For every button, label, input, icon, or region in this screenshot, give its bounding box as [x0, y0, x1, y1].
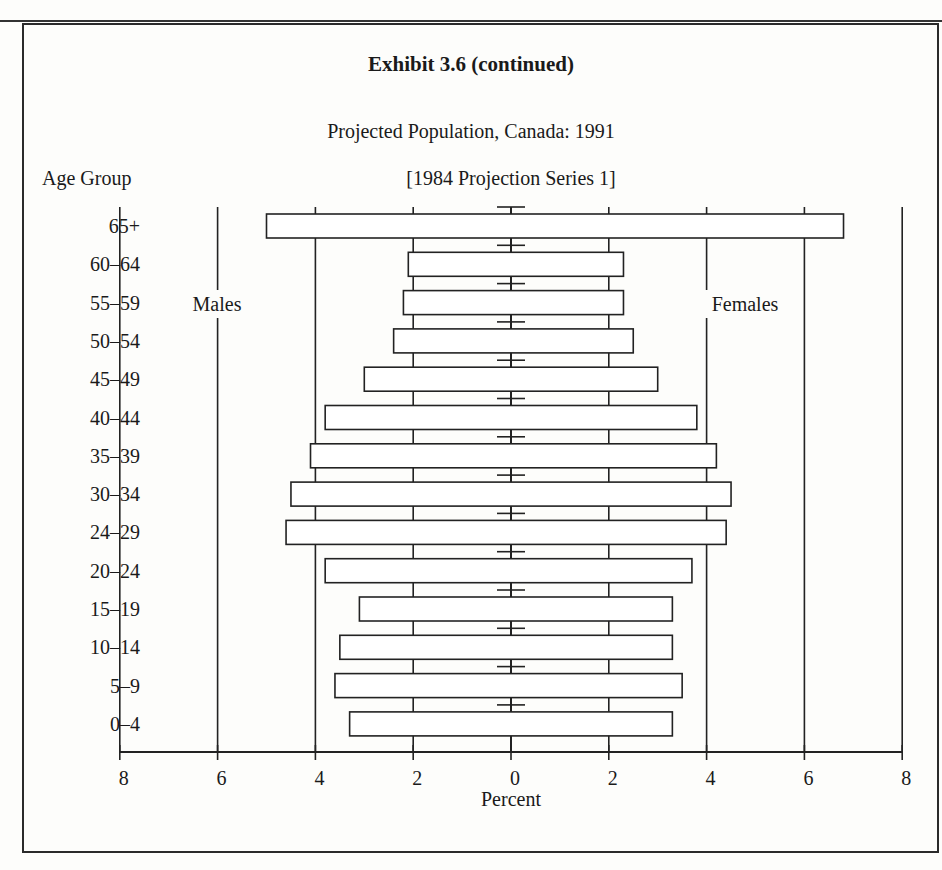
- x-tick-label: 4: [314, 767, 324, 789]
- age-label: 24–29: [90, 521, 140, 543]
- bar-50–54: [394, 329, 634, 353]
- age-group-labels: 65+60–6455–5950–5445–4940–4435–3930–3424…: [90, 215, 140, 735]
- x-tick-label: 2: [608, 767, 618, 789]
- population-pyramid-chart: 864202468 65+60–6455–5950–5445–4940–4435…: [0, 0, 942, 870]
- bar-15–19: [359, 597, 672, 621]
- bar-60–64: [408, 252, 623, 276]
- x-tick-label: 0: [510, 767, 520, 789]
- age-label: 20–24: [90, 560, 140, 582]
- age-label: 40–44: [90, 407, 140, 429]
- bar-45–49: [364, 367, 657, 391]
- age-label: 30–34: [90, 483, 140, 505]
- bar-0–4: [350, 712, 673, 736]
- bar-10–14: [340, 635, 673, 659]
- age-label: 60–64: [90, 253, 140, 275]
- x-axis-label: Percent: [0, 788, 942, 811]
- x-axis: 864202468: [119, 745, 911, 789]
- age-label: 50–54: [90, 330, 140, 352]
- age-label: 15–19: [90, 598, 140, 620]
- age-label: 10–14: [90, 636, 140, 658]
- age-label: 55–59: [90, 292, 140, 314]
- x-tick-label: 6: [217, 767, 227, 789]
- bar-5–9: [335, 674, 682, 698]
- age-label: 0–4: [110, 713, 140, 735]
- males-label: Males: [193, 293, 242, 315]
- age-label: 35–39: [90, 445, 140, 467]
- x-tick-label: 6: [803, 767, 813, 789]
- bar-30–34: [291, 482, 731, 506]
- bar-40–44: [325, 406, 697, 430]
- bar-35–39: [311, 444, 717, 468]
- bar-65+: [267, 214, 844, 238]
- x-tick-label: 8: [901, 767, 911, 789]
- age-label: 45–49: [90, 368, 140, 390]
- x-tick-label: 8: [119, 767, 129, 789]
- age-label: 65+: [109, 215, 140, 237]
- bars: [267, 207, 844, 736]
- bar-20–24: [325, 559, 692, 583]
- x-tick-label: 2: [412, 767, 422, 789]
- bar-24–29: [286, 520, 726, 544]
- gridlines: [120, 207, 902, 752]
- x-tick-label: 4: [706, 767, 716, 789]
- females-label: Females: [712, 293, 779, 315]
- age-label: 5–9: [110, 675, 140, 697]
- bar-55–59: [403, 291, 623, 315]
